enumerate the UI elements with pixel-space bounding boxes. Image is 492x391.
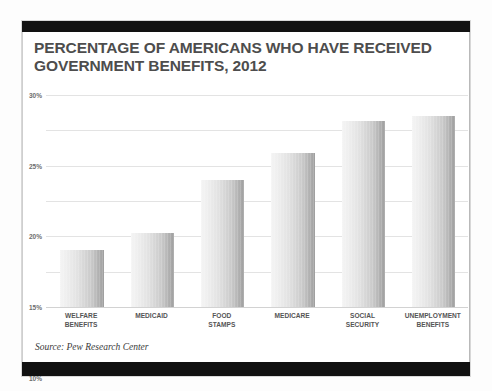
x-axis-category-label: UNEMPLOYMENTBENEFITS <box>398 311 468 329</box>
chart-card: PERCENTAGE OF AMERICANS WHO HAVE RECEIVE… <box>22 21 470 376</box>
x-axis-category-label-line: BENEFITS <box>398 320 468 329</box>
bar-medicaid <box>131 233 174 307</box>
gridline-25%: 25% <box>46 130 468 131</box>
x-axis-category-label: MEDICAID <box>116 311 186 320</box>
card-top-rule <box>22 21 470 32</box>
card-bottom-rule <box>22 362 470 376</box>
y-axis-tick-label: 20% <box>29 233 42 240</box>
card-left-edge <box>22 32 23 362</box>
x-axis-category-label: FOODSTAMPS <box>187 311 257 329</box>
x-axis-category-label-line: UNEMPLOYMENT <box>398 311 468 320</box>
x-axis-category-label-line: MEDICARE <box>257 311 327 320</box>
x-axis-category-label-line: SECURITY <box>327 320 397 329</box>
x-axis-category-label-line: MEDICAID <box>116 311 186 320</box>
bar-welfare-benefits <box>60 250 103 307</box>
chart-plot-area: 0%5%10%15%20%25%30%WELFAREBENEFITSMEDICA… <box>46 95 468 307</box>
gridline-5%: 5% <box>46 272 468 273</box>
bar-social-security <box>342 121 385 307</box>
x-axis-category-label: WELFAREBENEFITS <box>46 311 116 329</box>
chart-title-line-1: PERCENTAGE OF AMERICANS WHO HAVE RECEIVE… <box>34 39 444 57</box>
gridline-30%: 30% <box>46 95 468 96</box>
gridline-15%: 15% <box>46 201 468 202</box>
y-axis-tick-label: 25% <box>29 162 42 169</box>
x-axis-category-label: MEDICARE <box>257 311 327 320</box>
x-axis-category-label-line: BENEFITS <box>46 320 116 329</box>
gridline-10%: 10% <box>46 236 468 237</box>
chart-title: PERCENTAGE OF AMERICANS WHO HAVE RECEIVE… <box>34 39 444 75</box>
gridline-0%: 0% <box>46 307 468 308</box>
y-axis-tick-label: 15% <box>29 304 42 311</box>
page-background: PERCENTAGE OF AMERICANS WHO HAVE RECEIVE… <box>0 0 492 391</box>
card-right-edge <box>469 32 470 362</box>
x-axis-category-label-line: SOCIAL <box>327 311 397 320</box>
bar-medicare <box>271 153 314 307</box>
x-axis-category-label-line: FOOD <box>187 311 257 320</box>
bar-unemployment-benefits <box>412 116 455 307</box>
x-axis-category-label-line: STAMPS <box>187 320 257 329</box>
chart-title-line-2: GOVERNMENT BENEFITS, 2012 <box>34 57 444 75</box>
x-axis-category-label: SOCIALSECURITY <box>327 311 397 329</box>
gridline-20%: 20% <box>46 166 468 167</box>
source-note: Source: Pew Research Center <box>35 342 149 352</box>
x-axis-category-label-line: WELFARE <box>46 311 116 320</box>
bar-food-stamps <box>201 180 244 307</box>
y-axis-tick-label: 30% <box>29 92 42 99</box>
